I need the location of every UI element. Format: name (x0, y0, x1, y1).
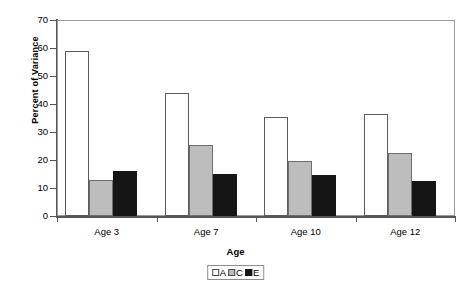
bar-e-age-3 (113, 171, 137, 216)
x-category-label: Age 7 (157, 226, 257, 237)
y-tick-mark (50, 76, 57, 77)
legend-item-a: A (211, 267, 227, 278)
x-category-label: Age 3 (57, 226, 157, 237)
bar-e-age-7 (213, 174, 237, 216)
y-tick-label: 20 (8, 155, 48, 165)
y-tick-label: 0 (8, 211, 48, 221)
y-axis-title: Percent of Variance (30, 0, 40, 170)
legend: ACE (207, 265, 265, 280)
x-category-label: Age 12 (356, 226, 456, 237)
bar-a-age-10 (264, 117, 288, 216)
x-tick-mark (157, 216, 158, 222)
legend-item-c: C (227, 267, 244, 278)
y-tick-mark (50, 104, 57, 105)
bar-c-age-3 (89, 180, 113, 216)
legend-swatch-icon (228, 269, 235, 276)
bar-c-age-10 (288, 161, 312, 216)
legend-item-e: E (244, 267, 260, 278)
chart-figure: Percent of Variance 010203040506070 Age … (0, 0, 471, 294)
legend-label: A (220, 267, 227, 278)
legend-label: E (253, 267, 260, 278)
y-tick-mark (50, 132, 57, 133)
legend-swatch-icon (245, 269, 252, 276)
x-tick-mark (356, 216, 357, 222)
y-tick-mark (50, 48, 57, 49)
y-tick-mark (50, 188, 57, 189)
bar-a-age-3 (65, 51, 89, 216)
x-tick-mark (256, 216, 257, 222)
x-category-label: Age 10 (256, 226, 356, 237)
y-tick-mark (50, 20, 57, 21)
bar-c-age-7 (189, 145, 213, 216)
legend-swatch-icon (212, 269, 219, 276)
y-tick-label: 60 (8, 43, 48, 53)
y-tick-label: 10 (8, 183, 48, 193)
cropped-header-text (0, 0, 471, 8)
bar-c-age-12 (388, 153, 412, 216)
bar-e-age-12 (412, 181, 436, 216)
legend-label: C (236, 267, 244, 278)
x-axis-title: Age (0, 246, 471, 257)
y-tick-mark (50, 160, 57, 161)
y-tick-label: 40 (8, 99, 48, 109)
y-tick-mark (50, 216, 57, 217)
bar-a-age-7 (165, 93, 189, 216)
bar-a-age-12 (364, 114, 388, 216)
y-tick-label: 50 (8, 71, 48, 81)
x-tick-mark (455, 216, 456, 222)
bar-e-age-10 (312, 175, 336, 216)
x-tick-mark (57, 216, 58, 222)
y-tick-label: 30 (8, 127, 48, 137)
y-tick-label: 70 (8, 15, 48, 25)
